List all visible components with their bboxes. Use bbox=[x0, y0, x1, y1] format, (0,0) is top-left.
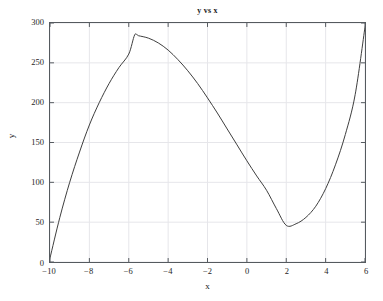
x-axis-label: x bbox=[49, 281, 366, 291]
y-tick-label: 50 bbox=[36, 218, 45, 227]
x-tick-label: 6 bbox=[351, 267, 381, 276]
y-tick-label: 200 bbox=[31, 98, 44, 107]
x-tick-label: −4 bbox=[153, 267, 183, 276]
x-axis-tick-labels: −10−8−6−4−20246 bbox=[49, 267, 366, 279]
plot-area bbox=[49, 22, 366, 263]
x-tick-label: −8 bbox=[74, 267, 104, 276]
chart-title: y vs x bbox=[49, 6, 366, 15]
x-tick-label: −10 bbox=[34, 267, 64, 276]
x-tick-label: 4 bbox=[311, 267, 341, 276]
y-tick-label: 250 bbox=[31, 58, 44, 67]
x-tick-label: −2 bbox=[193, 267, 223, 276]
y-tick-label: 150 bbox=[31, 138, 44, 147]
data-curve bbox=[50, 23, 365, 262]
y-tick-label: 300 bbox=[31, 18, 44, 27]
x-tick-label: 2 bbox=[272, 267, 302, 276]
figure-canvas: y vs x 050100150200250300 −10−8−6−4−2024… bbox=[0, 0, 383, 301]
x-tick-label: −6 bbox=[113, 267, 143, 276]
x-tick-label: 0 bbox=[232, 267, 262, 276]
y-tick-label: 100 bbox=[31, 178, 44, 187]
y-axis-label: y bbox=[6, 121, 16, 151]
